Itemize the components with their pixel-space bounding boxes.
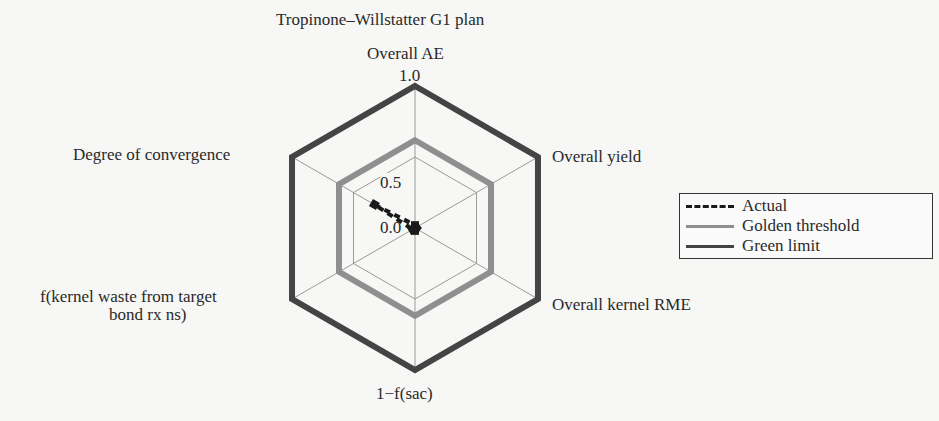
dark-line-swatch-icon bbox=[686, 245, 734, 248]
legend-item-green-limit: Green limit bbox=[686, 236, 820, 256]
axis-label-kernel-waste-line1: f(kernel waste from target bbox=[40, 287, 217, 306]
axis-label-kernel-waste-line2: bond rx ns) bbox=[109, 305, 186, 324]
tick-label-0-5: 0.5 bbox=[380, 173, 401, 192]
gray-line-swatch-icon bbox=[686, 225, 734, 228]
legend-label-actual: Actual bbox=[742, 196, 787, 216]
tick-label-1-0: 1.0 bbox=[399, 66, 420, 85]
tick-label-0-0: 0.0 bbox=[380, 218, 401, 237]
legend-item-golden-threshold: Golden threshold bbox=[686, 216, 860, 236]
axis-label-degree-of-convergence: Degree of convergence bbox=[73, 145, 230, 164]
legend: Actual Golden threshold Green limit bbox=[679, 193, 933, 259]
chart-title: Tropinone–Willstatter G1 plan bbox=[276, 10, 484, 29]
axis-label-one-minus-f-sac: 1−f(sac) bbox=[376, 384, 433, 403]
axis-label-overall-yield: Overall yield bbox=[552, 147, 641, 166]
legend-label-green-limit: Green limit bbox=[742, 236, 820, 256]
axis-label-overall-ae: Overall AE bbox=[367, 44, 444, 63]
axis-label-overall-kernel-rme: Overall kernel RME bbox=[552, 295, 691, 314]
dashed-line-swatch-icon bbox=[686, 205, 734, 208]
legend-label-golden-threshold: Golden threshold bbox=[742, 216, 860, 236]
legend-item-actual: Actual bbox=[686, 196, 787, 216]
